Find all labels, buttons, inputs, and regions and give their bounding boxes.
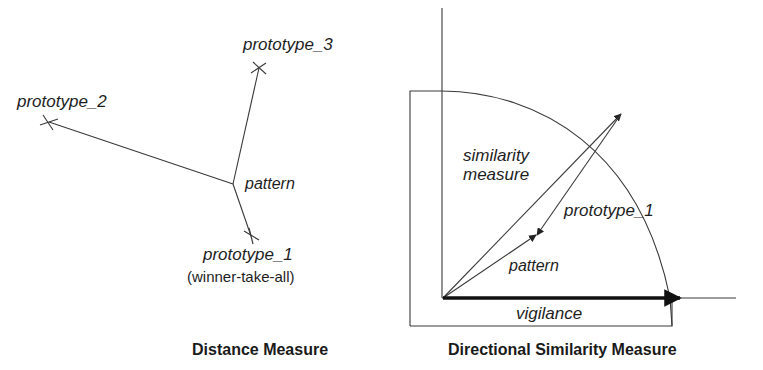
prototype-2-cross-icon: [40, 115, 58, 130]
vigilance-label: vigilance: [516, 304, 582, 323]
diagram-canvas: [0, 0, 763, 370]
winner-take-all-note: (winner-take-all): [187, 268, 295, 285]
similarity-measure-label-line1: similarity: [463, 146, 529, 165]
similarity-measure-label-line2: measure: [463, 165, 529, 184]
prototype-3-label: prototype_3: [243, 35, 333, 54]
prototype-1-label: prototype_1: [203, 245, 293, 264]
directional-similarity-caption: Directional Similarity Measure: [448, 341, 677, 359]
line-to-prototype-2: [49, 122, 233, 184]
pattern-label: pattern: [245, 174, 295, 193]
distance-measure-caption: Distance Measure: [192, 341, 328, 359]
prototype-1-cross-icon: [244, 228, 259, 244]
pattern-vector-label: pattern: [509, 256, 559, 275]
distance-measure-diagram: [40, 62, 266, 244]
directional-similarity-diagram: [410, 8, 736, 326]
prototype-1-vector-label: prototype_1: [564, 201, 654, 220]
prototype-2-label: prototype_2: [17, 92, 107, 111]
line-to-prototype-3: [233, 68, 259, 184]
